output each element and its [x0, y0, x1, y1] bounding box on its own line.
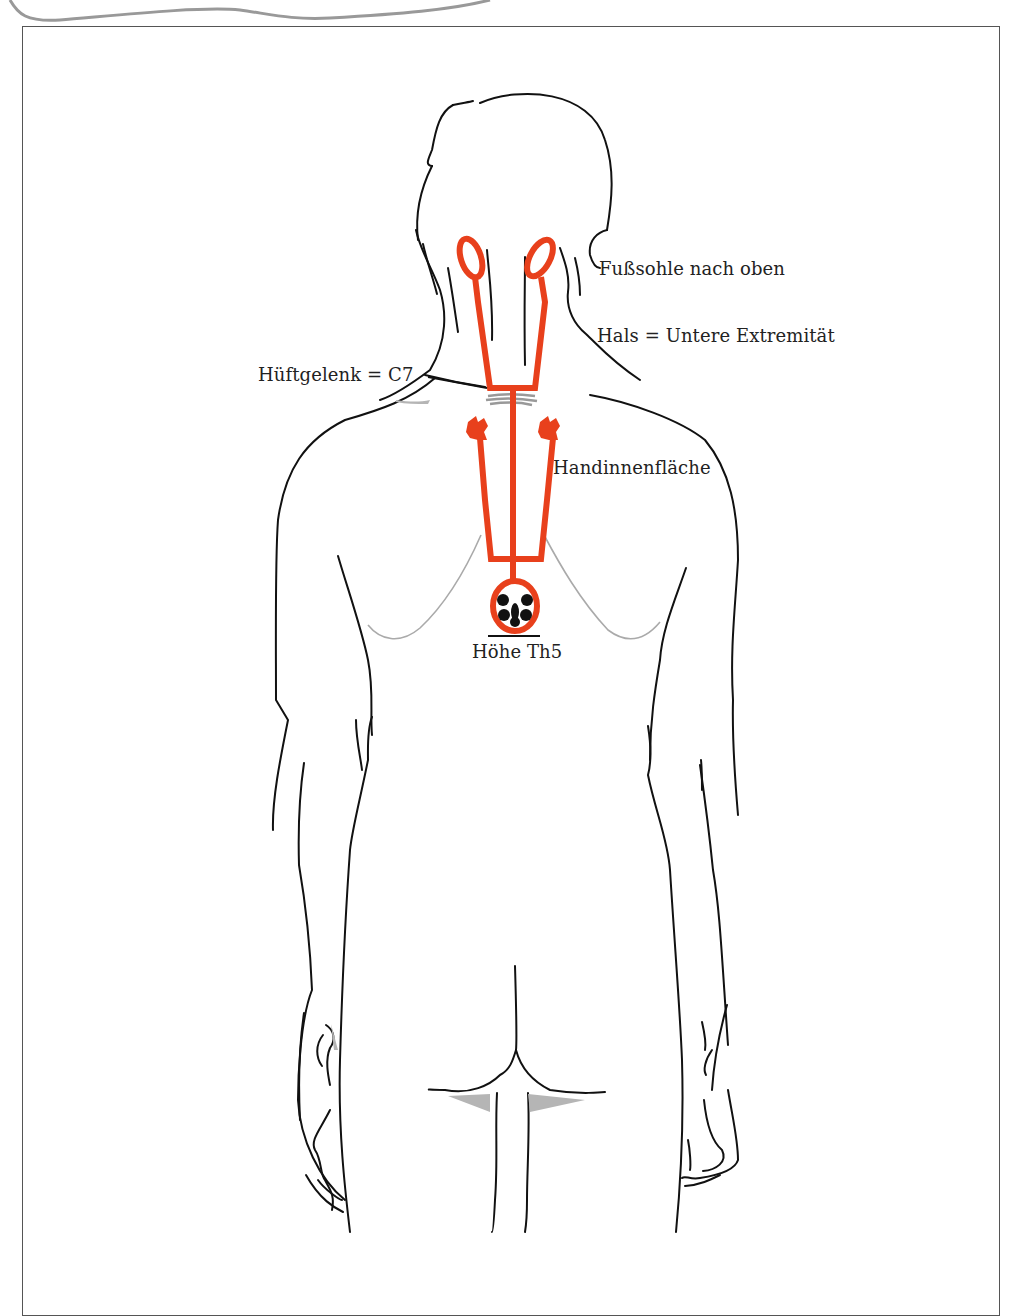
label-foot-sole: Fußsohle nach oben — [599, 258, 785, 279]
leg-projection — [475, 277, 545, 388]
foot-sole-right — [522, 236, 558, 281]
shoulder-left — [273, 378, 435, 830]
arm-projection — [480, 438, 553, 559]
gluteal-cleft — [429, 966, 517, 1091]
th5-dots — [497, 594, 533, 627]
label-neck: Hals = Untere Extremität — [597, 325, 835, 346]
hip-pointer-line — [428, 377, 487, 388]
torso-right — [648, 726, 683, 1232]
label-hip-joint: Hüftgelenk = C7 — [258, 364, 414, 385]
head-outline — [417, 166, 432, 240]
label-palm: Handinnenfläche — [553, 457, 711, 478]
label-th5-level: Höhe Th5 — [472, 641, 562, 662]
foot-sole-left — [455, 236, 486, 280]
torso-left — [340, 717, 372, 1232]
